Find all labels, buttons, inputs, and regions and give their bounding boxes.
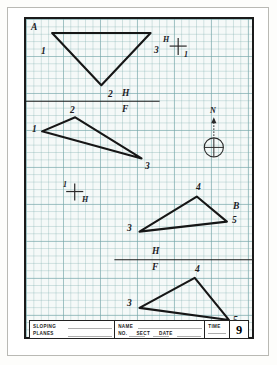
subject-rule-2 — [68, 336, 112, 337]
vertex-label-5a: 5 — [232, 216, 237, 226]
corner-label-b: B — [233, 202, 239, 212]
title-block-time-cell: TIME — [205, 321, 230, 338]
vertex-label-3b: 3 — [145, 162, 150, 172]
time-label: TIME — [208, 323, 226, 330]
fold-marker-1h-cross — [66, 184, 83, 201]
fold-marker-1h-top-label: 1 — [63, 181, 67, 189]
drawing-frame: A B 1 3 2 H F 2 1 3 H 1 1 H N 4 5 3 H F … — [24, 17, 254, 339]
triangle-upper-top-view — [42, 117, 141, 158]
vertex-label-3d: 3 — [127, 299, 132, 309]
hf-label-h-upper: H — [122, 89, 129, 99]
title-block: SLOPING PLANES NAME NO. SECT DATE TIME 9 — [29, 320, 249, 339]
triangle-top-front-view — [52, 33, 150, 85]
name-rule[interactable] — [138, 328, 202, 329]
title-block-subject-cell: SLOPING PLANES — [30, 321, 115, 338]
vertex-label-2b: 2 — [70, 106, 75, 116]
north-arrow-label: N — [210, 107, 216, 115]
fold-marker-h1-bottom-label: 1 — [184, 51, 188, 59]
worksheet-page: A B 1 3 2 H F 2 1 3 H 1 1 H N 4 5 3 H F … — [0, 0, 277, 365]
drawing-canvas — [26, 19, 252, 337]
no-rule[interactable] — [129, 336, 145, 337]
time-rule[interactable] — [208, 333, 226, 334]
hf-label-f-upper: F — [122, 105, 128, 115]
hf-label-h-lower: H — [152, 247, 159, 257]
vertex-label-3c: 3 — [127, 224, 132, 234]
triangle-right-top-view — [140, 278, 229, 320]
vertex-label-4b: 4 — [195, 265, 200, 275]
vertex-label-2a: 2 — [108, 90, 113, 100]
fold-marker-1h-bottom-label: H — [82, 196, 88, 204]
sect-rule[interactable] — [153, 336, 169, 337]
triangle-right-front-view — [140, 197, 227, 232]
vertex-label-4a: 4 — [196, 183, 201, 193]
title-block-sheet-number-cell: 9 — [230, 321, 248, 338]
corner-label-a: A — [31, 23, 37, 33]
vertex-label-1a: 1 — [41, 47, 46, 57]
sheet-number: 9 — [236, 323, 242, 338]
north-arrow-symbol — [204, 117, 223, 157]
hf-label-f-lower: F — [152, 263, 158, 273]
fold-marker-h1-top-label: H — [163, 36, 169, 44]
vertex-label-3a: 3 — [154, 46, 159, 56]
title-block-name-cell: NAME NO. SECT DATE — [115, 321, 205, 338]
date-rule[interactable] — [177, 336, 201, 337]
no-label: NO. — [118, 330, 127, 337]
vertex-label-1b: 1 — [32, 125, 37, 135]
subject-rule-1 — [68, 328, 112, 329]
